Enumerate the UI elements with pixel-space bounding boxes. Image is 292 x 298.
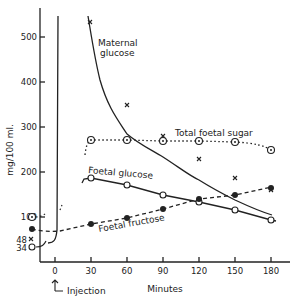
y-tick-200: 200 — [21, 167, 37, 177]
x-tick-90: 90 — [158, 266, 169, 276]
x-axis-label: Minutes — [147, 284, 183, 294]
label-foetal-glucose: Foetal glucose — [88, 165, 154, 181]
x-tick-180: 180 — [263, 266, 279, 276]
chart: 500 400 300 200 100 48 34 0 30 60 90 120… — [0, 0, 292, 298]
x-tick-0: 0 — [52, 266, 57, 276]
label-total-foetal-sugar: Total foetal sugar — [174, 128, 253, 138]
injection-arrow-icon — [52, 280, 63, 291]
y-tick-500: 500 — [21, 32, 37, 42]
x-tick-30: 30 — [86, 266, 97, 276]
y-tick-34: 34 — [16, 243, 27, 253]
x-tick-120: 120 — [191, 266, 207, 276]
x-tick-60: 60 — [122, 266, 133, 276]
label-maternal-2: glucose — [100, 48, 135, 58]
x-tick-labels: 0 30 60 90 120 150 180 — [52, 266, 279, 276]
y-tick-300: 300 — [21, 122, 37, 132]
series-foetal-glucose — [29, 175, 276, 250]
y-tick-400: 400 — [21, 77, 37, 87]
injection-spike — [48, 16, 58, 243]
label-foetal-fructose: Foetal fructose — [98, 212, 166, 234]
injection-label: Injection — [67, 286, 106, 296]
y-axis-label: mg/100 ml. — [5, 124, 15, 176]
x-tick-150: 150 — [227, 266, 243, 276]
label-maternal-1: Maternal — [98, 38, 138, 48]
